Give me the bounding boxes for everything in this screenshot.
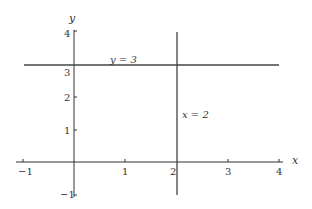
x-axis-label: x: [292, 154, 299, 167]
tick-label-x-minus1: −1: [18, 166, 33, 177]
y-axis-label: y: [68, 12, 76, 25]
tick-label-x-1: 1: [122, 166, 128, 177]
tick-label-y-2: 2: [64, 92, 70, 103]
graph: −1 1 2 3 4 4 3 2 1 −1 x y y = 3 x = 2: [0, 0, 312, 209]
tick-label-y-1: 1: [64, 125, 70, 136]
tick-label-y-minus1: −1: [60, 189, 75, 200]
tick-label-y-4: 4: [64, 28, 70, 39]
line-label-y-equals-3: y = 3: [109, 54, 137, 65]
tick-label-x-4: 4: [276, 166, 282, 177]
tick-label-x-2: 2: [170, 166, 176, 177]
line-label-x-equals-2: x = 2: [182, 109, 209, 120]
tick-label-x-3: 3: [225, 166, 231, 177]
tick-label-y-3: 3: [64, 67, 70, 78]
